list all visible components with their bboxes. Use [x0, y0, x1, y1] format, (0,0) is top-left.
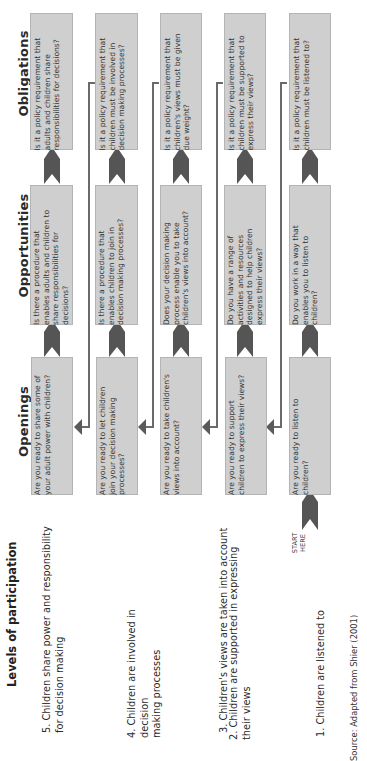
column-header-obligations: Obligations	[16, 29, 31, 119]
opportunities-question: Do you work in a way that enables you to…	[291, 187, 331, 325]
column-header-openings: Openings	[16, 377, 31, 467]
obligations-box-level-2: Is it a policy requirement that children…	[224, 13, 266, 150]
opportunities-question: Is there a procedure that enables childr…	[97, 187, 137, 325]
opportunities-question: Does your decision making process enable…	[162, 187, 202, 325]
obligations-box-level-5: Is it a policy requirement that adults a…	[30, 13, 73, 150]
chevron-arrow-icon	[173, 320, 189, 357]
opportunities-question: Do you have a range of activities and re…	[226, 187, 266, 325]
opportunities-question: Is there a procedure that enables adults…	[32, 187, 72, 325]
level-1-label: 1. Children are listened to	[315, 603, 329, 737]
opportunities-box-level-5: Is there a procedure that enables adults…	[30, 185, 73, 325]
start-here-label: START HERE	[292, 532, 310, 554]
openings-question: Are you ready to let children join your …	[98, 359, 138, 495]
column-header-opportunities: Opportunities	[16, 189, 31, 303]
openings-question: Are you ready to support children to exp…	[227, 359, 267, 495]
chevron-arrow-icon	[44, 320, 60, 357]
chevron-arrow-icon	[302, 147, 318, 184]
start-arrow-icon	[302, 490, 318, 530]
obligations-box-level-1: Is it a policy requirement that children…	[289, 13, 331, 150]
obligations-question: Is it a policy requirement that children…	[227, 14, 267, 151]
openings-box-level-2: Are you ready to support children to exp…	[225, 357, 267, 495]
chevron-arrow-icon	[109, 320, 125, 357]
opportunities-box-level-3: Does your decision making process enable…	[160, 185, 202, 325]
chevron-arrow-icon	[237, 147, 253, 184]
source-citation: Source: Adapted from Shier (2001)	[349, 597, 361, 761]
level-5-label: 5. Children share power and responsibili…	[41, 505, 67, 733]
openings-box-level-3: Are you ready to take children's views i…	[160, 357, 202, 495]
chevron-arrow-icon	[173, 147, 189, 184]
obligations-question: Is it a policy requirement that children…	[98, 14, 138, 151]
obligations-box-level-3: Is it a policy requirement that children…	[160, 13, 202, 150]
opportunities-box-level-1: Do you work in a way that enables you to…	[289, 185, 331, 325]
opportunities-box-level-4: Is there a procedure that enables childr…	[95, 185, 138, 325]
opportunities-box-level-2: Do you have a range of activities and re…	[224, 185, 266, 325]
openings-box-level-4: Are you ready to let children join your …	[96, 357, 138, 495]
openings-box-level-1: Are you ready to listen to children?	[289, 357, 331, 495]
levels-title: Levels of participation	[5, 553, 21, 687]
openings-question: Are you ready to share some of your adul…	[33, 359, 73, 495]
obligations-question: Is it a policy requirement that children…	[292, 14, 332, 151]
chevron-arrow-icon	[44, 147, 60, 184]
chevron-arrow-icon	[109, 147, 125, 184]
chevron-arrow-icon	[302, 320, 318, 357]
chevron-arrow-icon	[237, 320, 253, 357]
openings-box-level-5: Are you ready to share some of your adul…	[31, 357, 73, 495]
obligations-question: Is it a policy requirement that adults a…	[33, 14, 73, 151]
obligations-question: Is it a policy requirement that children…	[163, 14, 203, 151]
level-2-label: 2. Children are supported in expressing …	[228, 530, 254, 740]
level-4-label: 4. Children are involved in decision mak…	[126, 568, 152, 738]
obligations-box-level-4: Is it a policy requirement that children…	[95, 13, 138, 150]
openings-question: Are you ready to take children's views i…	[162, 359, 202, 495]
openings-question: Are you ready to listen to children?	[291, 359, 331, 495]
